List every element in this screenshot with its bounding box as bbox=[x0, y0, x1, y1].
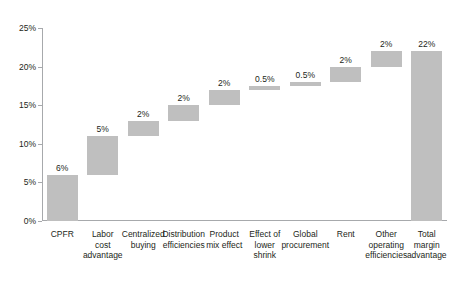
x-axis-category-label: Total margin advantage bbox=[400, 229, 451, 261]
y-axis-tick-label: 20% bbox=[19, 62, 36, 72]
y-axis-tick-label: 0% bbox=[24, 216, 36, 226]
bar-segment bbox=[128, 121, 159, 136]
bar-value-label: 2% bbox=[178, 93, 190, 103]
y-axis-tick bbox=[38, 182, 42, 183]
bar-value-label: 22% bbox=[418, 39, 435, 49]
waterfall-chart: · · · · 0%5%10%15%20%25% 6%5%2%2%2%0.5%0… bbox=[0, 0, 451, 284]
bar-value-label: 2% bbox=[218, 78, 230, 88]
bar-value-label: 5% bbox=[97, 124, 109, 134]
bar-segment bbox=[87, 136, 118, 175]
bar-total bbox=[411, 51, 442, 221]
bar-segment bbox=[168, 105, 199, 120]
bar-value-label: 0.5% bbox=[296, 70, 315, 80]
bar-segment bbox=[209, 90, 240, 105]
y-axis-tick bbox=[38, 221, 42, 222]
bar-value-label: 2% bbox=[340, 55, 352, 65]
bar-value-label: 2% bbox=[137, 109, 149, 119]
y-axis-tick bbox=[38, 67, 42, 68]
bar-value-label: 0.5% bbox=[255, 74, 274, 84]
bar-segment bbox=[290, 82, 321, 86]
y-axis-tick-label: 15% bbox=[19, 100, 36, 110]
bar-segment bbox=[371, 51, 402, 66]
y-axis-tick bbox=[38, 28, 42, 29]
y-axis-tick bbox=[38, 144, 42, 145]
clipped-title-remnant: · · · · bbox=[34, 0, 56, 4]
y-axis-tick-label: 25% bbox=[19, 23, 36, 33]
bar-value-label: 2% bbox=[380, 39, 392, 49]
y-axis-tick-label: 5% bbox=[24, 177, 36, 187]
bar-segment bbox=[249, 86, 280, 90]
bar-segment bbox=[330, 67, 361, 82]
y-axis-tick bbox=[38, 105, 42, 106]
y-axis-tick-label: 10% bbox=[19, 139, 36, 149]
bar-value-label: 6% bbox=[56, 163, 68, 173]
plot-area: 0%5%10%15%20%25% 6%5%2%2%2%0.5%0.5%2%2%2… bbox=[42, 28, 447, 221]
bar-segment bbox=[47, 175, 78, 221]
